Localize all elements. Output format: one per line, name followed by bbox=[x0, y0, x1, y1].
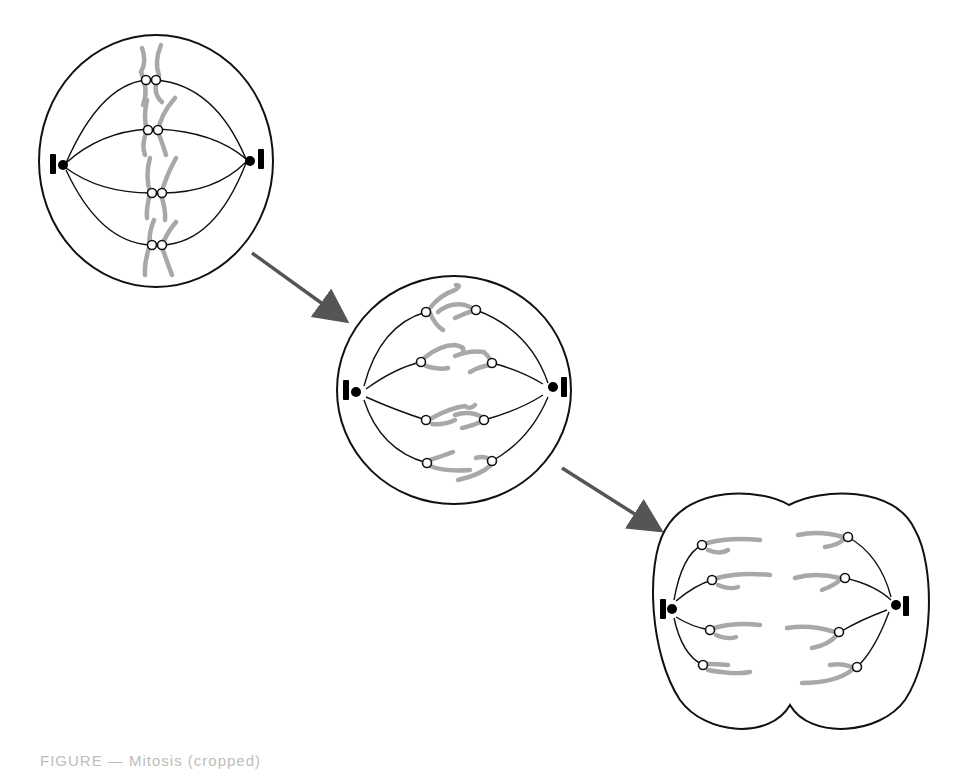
centrosome-right bbox=[548, 377, 567, 397]
telophase-cell bbox=[653, 493, 929, 728]
arrow-metaphase-to-anaphase bbox=[252, 253, 338, 315]
centrosome-left bbox=[50, 154, 68, 174]
centrosome-right bbox=[245, 149, 264, 169]
spindle-fibers bbox=[674, 537, 891, 667]
anaphase-cell bbox=[337, 276, 571, 504]
centrosome-right bbox=[891, 596, 909, 616]
arrow-anaphase-to-telophase bbox=[562, 468, 652, 525]
centrosome-left bbox=[660, 599, 677, 619]
chromosomes bbox=[424, 285, 492, 480]
centromeres bbox=[417, 306, 497, 468]
centrosome-left bbox=[343, 380, 361, 400]
figure-caption: FIGURE — Mitosis (cropped) bbox=[40, 752, 261, 769]
metaphase-cell bbox=[39, 35, 273, 287]
chromosomes bbox=[707, 533, 852, 683]
spindle-fibers bbox=[364, 310, 548, 463]
